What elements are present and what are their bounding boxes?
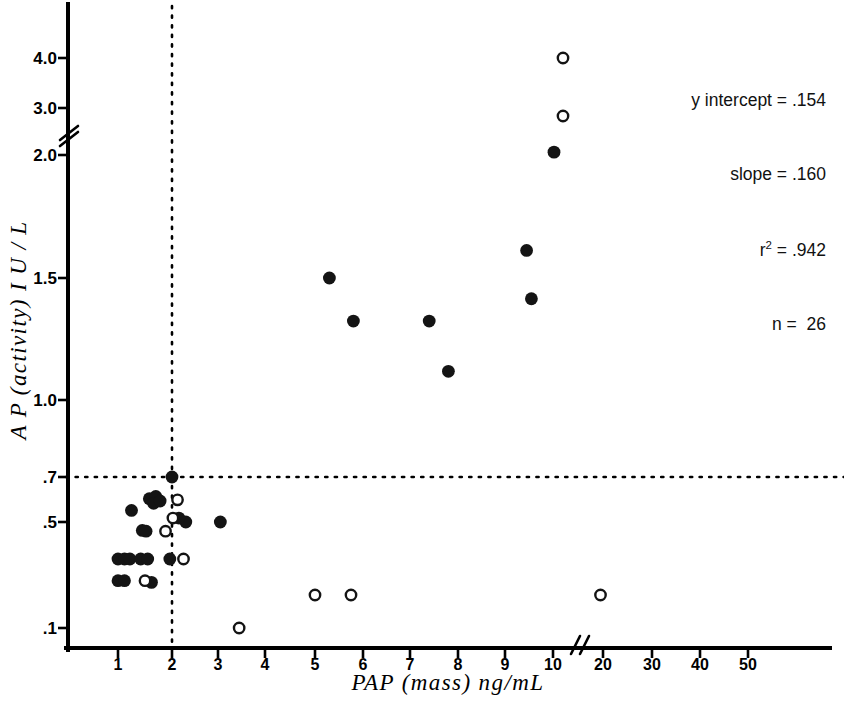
data-point-filled [141, 553, 154, 566]
data-point-open [160, 526, 170, 536]
x-axis-break-mark [571, 636, 580, 654]
x-tick-label: 40 [691, 656, 709, 673]
y-tick-label: .1 [43, 619, 57, 638]
scatter-plot-figure: 4.03.02.01.51.0.7.5.1 123456789102030405… [0, 0, 844, 703]
y-tick-label: 2.0 [33, 146, 57, 165]
data-point-filled [214, 516, 227, 529]
data-point-filled [525, 292, 538, 305]
data-point-open [234, 623, 244, 633]
data-point-open [595, 590, 605, 600]
x-tick-label: 20 [594, 656, 612, 673]
x-tick-label: 3 [214, 656, 223, 673]
data-point-filled [118, 574, 131, 587]
data-point-open [168, 513, 178, 523]
data-point-filled [423, 315, 436, 328]
data-point-filled [323, 272, 336, 285]
x-tick-label: 1 [114, 656, 123, 673]
y-tick-label: 3.0 [33, 99, 57, 118]
slope-label: slope = .160 [691, 162, 826, 187]
x-tick-label: 50 [739, 656, 757, 673]
y-tick-label: 1.5 [33, 269, 57, 288]
sample-size-label: n = 26 [691, 312, 826, 337]
r-squared-label: r2 = .942 [691, 237, 826, 263]
data-point-open [178, 554, 188, 564]
data-point-open [558, 111, 568, 121]
y-axis-title: A P (activity) I U / L [6, 220, 31, 441]
y-tick-label: 1.0 [33, 391, 57, 410]
data-point-filled [125, 504, 138, 517]
data-point-open [310, 590, 320, 600]
data-point-open [558, 53, 568, 63]
data-point-filled [520, 244, 533, 257]
x-axis-break-mark [580, 636, 589, 654]
x-tick-label: 4 [261, 656, 270, 673]
y-tick-label: .5 [43, 513, 57, 532]
y-tick-label: .7 [43, 468, 57, 487]
data-point-open [346, 590, 356, 600]
data-point-filled [548, 146, 561, 159]
data-point-open [172, 495, 182, 505]
data-point-filled [140, 525, 153, 538]
data-point-open [140, 576, 150, 586]
data-point-filled [442, 365, 455, 378]
r-squared-suffix: = .942 [772, 240, 826, 260]
x-tick-label: 2 [168, 656, 177, 673]
x-tick-label: 30 [643, 656, 661, 673]
data-point-filled [166, 471, 179, 484]
data-point-filled [163, 553, 176, 566]
data-point-filled [154, 495, 167, 508]
y-intercept-label: y intercept = .154 [691, 88, 826, 113]
x-tick-label: 5 [311, 656, 320, 673]
x-axis-title: PAP (mass) ng/mL [351, 670, 545, 695]
y-tick-label: 4.0 [33, 49, 57, 68]
data-point-layer [112, 53, 606, 633]
data-point-filled [347, 315, 360, 328]
x-tick-label: 10 [544, 656, 562, 673]
statistics-annotation: y intercept = .154 slope = .160 r2 = .94… [691, 38, 826, 387]
